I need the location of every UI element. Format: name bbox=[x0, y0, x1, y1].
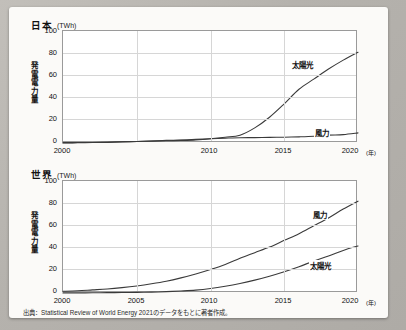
scanned-page-background: 日本 (TWh) 発電電力量 100 80 60 40 20 0 太陽光 bbox=[0, 0, 406, 330]
x-tick-label: 2000 bbox=[42, 146, 82, 155]
x-tick-label: 2010 bbox=[189, 146, 229, 155]
gridline-horizontal bbox=[63, 75, 356, 76]
gridline-vertical bbox=[211, 181, 212, 291]
y-tick-label: 20 bbox=[37, 114, 57, 123]
y-tick-label: 40 bbox=[37, 92, 57, 101]
gridline-horizontal bbox=[63, 97, 356, 98]
x-tick-label: 2020 bbox=[330, 146, 370, 155]
y-tick-label: 40 bbox=[37, 242, 57, 251]
y-tick-label: 60 bbox=[37, 70, 57, 79]
unit-label-japan: (TWh) bbox=[57, 22, 76, 29]
gridline-horizontal bbox=[63, 203, 356, 204]
gridline-vertical bbox=[284, 31, 285, 141]
x-tick-label: 2015 bbox=[263, 296, 303, 305]
gridline-vertical bbox=[137, 31, 138, 141]
unit-label-world: (TWh) bbox=[57, 172, 76, 179]
y-tick-label: 100 bbox=[37, 26, 57, 35]
x-axis-unit-label: (年) bbox=[366, 148, 376, 157]
y-tick-label: 0 bbox=[37, 136, 57, 145]
x-tick-label: 2015 bbox=[263, 146, 303, 155]
gridline-horizontal bbox=[63, 119, 356, 120]
y-tick-label: 20 bbox=[37, 264, 57, 273]
plot-area-world bbox=[62, 180, 357, 292]
x-tick-label: 2010 bbox=[189, 296, 229, 305]
x-tick-label: 2000 bbox=[42, 296, 82, 305]
gridline-horizontal bbox=[63, 53, 356, 54]
y-tick-label: 0 bbox=[37, 286, 57, 295]
series-label-wind-japan: 風力 bbox=[314, 127, 330, 138]
x-axis-unit-label: (年) bbox=[366, 298, 376, 307]
y-tick-label: 80 bbox=[37, 198, 57, 207]
y-tick-label: 60 bbox=[37, 220, 57, 229]
gridline-horizontal bbox=[63, 247, 356, 248]
series-label-solar-world: 太陽光 bbox=[309, 260, 332, 271]
y-tick-label: 80 bbox=[37, 48, 57, 57]
x-tick-label: 2020 bbox=[330, 296, 370, 305]
y-tick-label: 100 bbox=[37, 176, 57, 185]
series-label-wind-world: 風力 bbox=[312, 209, 328, 220]
gridline-vertical bbox=[137, 181, 138, 291]
gridline-horizontal bbox=[63, 225, 356, 226]
gridline-vertical bbox=[211, 31, 212, 141]
series-label-solar-japan: 太陽光 bbox=[291, 59, 314, 70]
x-tick-label: 2005 bbox=[116, 296, 156, 305]
plot-area-japan bbox=[62, 30, 357, 142]
gridline-vertical bbox=[284, 181, 285, 291]
source-note: 出典：Statistical Review of World Energy 20… bbox=[23, 308, 231, 317]
figure-card: 日本 (TWh) 発電電力量 100 80 60 40 20 0 太陽光 bbox=[9, 7, 388, 318]
